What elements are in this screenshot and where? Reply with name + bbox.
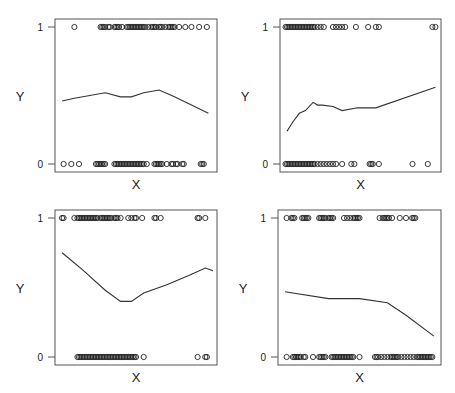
data-point — [61, 161, 66, 166]
data-point — [69, 161, 74, 166]
data-point — [141, 354, 146, 359]
data-point — [203, 215, 208, 220]
y-axis-label: Y — [16, 89, 25, 104]
smooth-curve — [285, 292, 434, 336]
data-point — [310, 354, 315, 359]
plot-frame — [280, 19, 441, 172]
data-point — [183, 24, 188, 29]
data-point — [197, 24, 202, 29]
y-tick-label: 1 — [37, 213, 43, 224]
smooth-curve — [62, 253, 213, 302]
data-point — [189, 24, 194, 29]
y-tick-label: 0 — [260, 352, 266, 363]
panel-3: 01YX — [16, 210, 217, 385]
x-axis-label: X — [356, 177, 365, 192]
panel-4: 01YX — [239, 210, 441, 385]
y-tick-label: 0 — [262, 159, 268, 170]
data-point — [366, 24, 371, 29]
data-point — [376, 24, 381, 29]
smooth-curve — [62, 90, 208, 113]
data-point — [343, 24, 348, 29]
data-point — [333, 161, 338, 166]
y-axis-label: Y — [241, 89, 250, 104]
data-point — [72, 24, 77, 29]
panel-2: 01YX — [241, 19, 441, 192]
x-axis-label: X — [355, 370, 364, 385]
plot-frame — [278, 210, 441, 365]
y-tick-label: 0 — [37, 352, 43, 363]
data-point — [410, 161, 415, 166]
data-point — [321, 24, 326, 29]
data-point — [425, 161, 430, 166]
data-point — [433, 24, 438, 29]
panel-1: 01YX — [16, 19, 217, 192]
y-tick-label: 1 — [260, 213, 266, 224]
data-point — [403, 215, 408, 220]
data-point — [195, 354, 200, 359]
y-axis-label: Y — [239, 281, 248, 296]
data-point — [340, 161, 345, 166]
data-point — [76, 161, 81, 166]
data-point — [397, 215, 402, 220]
data-point — [352, 161, 357, 166]
y-axis-label: Y — [16, 281, 25, 296]
y-tick-label: 1 — [37, 22, 43, 33]
data-point — [140, 215, 145, 220]
x-axis-label: X — [132, 177, 141, 192]
data-point — [204, 24, 209, 29]
data-point — [284, 354, 289, 359]
plot-canvas: 01YX01YX01YX01YX — [0, 0, 455, 393]
smooth-curve — [287, 87, 435, 131]
y-tick-label: 1 — [262, 22, 268, 33]
chart-grid: 01YX01YX01YX01YX — [0, 0, 455, 393]
data-point — [353, 24, 358, 29]
data-point — [357, 354, 362, 359]
y-tick-label: 0 — [37, 159, 43, 170]
plot-frame — [55, 210, 217, 365]
data-point — [376, 161, 381, 166]
x-axis-label: X — [132, 370, 141, 385]
